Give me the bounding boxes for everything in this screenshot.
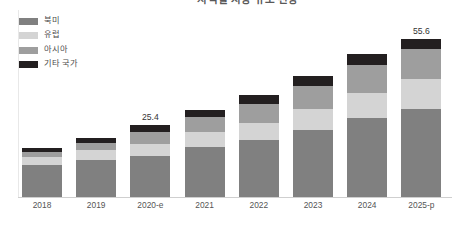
bar-segment[interactable] bbox=[293, 76, 333, 86]
bar-segment[interactable] bbox=[22, 165, 62, 197]
bar-stack bbox=[130, 125, 170, 197]
bar-group[interactable] bbox=[76, 138, 116, 197]
x-axis-tick-label: 2021 bbox=[185, 200, 225, 210]
bar-segment[interactable] bbox=[347, 93, 387, 119]
bar-segment[interactable] bbox=[347, 118, 387, 197]
x-axis-labels: 201820192020-e20212022202320242025-p bbox=[18, 200, 452, 216]
bar-segment[interactable] bbox=[22, 157, 62, 165]
x-axis-tick-label: 2024 bbox=[347, 200, 387, 210]
x-axis-tick-label: 2023 bbox=[293, 200, 333, 210]
bar-value-label: 25.4 bbox=[120, 112, 180, 122]
bar-segment[interactable] bbox=[239, 95, 279, 104]
bar-stack bbox=[239, 95, 279, 197]
bar-value-label: 55.6 bbox=[391, 26, 451, 36]
bar-segment[interactable] bbox=[76, 160, 116, 197]
bar-group[interactable]: 25.4 bbox=[130, 125, 170, 197]
x-axis-tick-label: 2025-p bbox=[401, 200, 441, 210]
bar-segment[interactable] bbox=[76, 143, 116, 150]
x-axis-line bbox=[18, 197, 452, 198]
x-axis-tick-label: 2019 bbox=[76, 200, 116, 210]
bar-segment[interactable] bbox=[293, 109, 333, 130]
bar-segment[interactable] bbox=[130, 125, 170, 132]
bar-segment[interactable] bbox=[239, 104, 279, 123]
bar-segment[interactable] bbox=[401, 39, 441, 49]
bar-group[interactable] bbox=[239, 95, 279, 197]
x-axis-tick-label: 2018 bbox=[22, 200, 62, 210]
bar-segment[interactable] bbox=[185, 147, 225, 197]
plot-area: 25.455.6 bbox=[18, 10, 452, 198]
y-axis-line bbox=[18, 10, 19, 198]
bar-segment[interactable] bbox=[130, 144, 170, 156]
bar-segment[interactable] bbox=[185, 117, 225, 132]
chart-title: 지역별 시장 규모 전망 bbox=[118, 0, 378, 5]
bar-segment[interactable] bbox=[401, 79, 441, 109]
bar-segment[interactable] bbox=[130, 156, 170, 197]
bar-stack bbox=[76, 138, 116, 197]
x-axis-tick-label: 2020-e bbox=[130, 200, 170, 210]
bar-segment[interactable] bbox=[130, 132, 170, 144]
bar-segment[interactable] bbox=[347, 65, 387, 93]
bar-segment[interactable] bbox=[293, 130, 333, 197]
bar-group[interactable] bbox=[293, 76, 333, 197]
stacked-bar-chart: 지역별 시장 규모 전망 북미유럽아시아기타 국가 25.455.6 20182… bbox=[0, 0, 456, 231]
bar-segment[interactable] bbox=[185, 132, 225, 147]
bar-group[interactable]: 55.6 bbox=[401, 39, 441, 197]
bar-segment[interactable] bbox=[185, 110, 225, 117]
bar-segment[interactable] bbox=[347, 54, 387, 65]
bar-segment[interactable] bbox=[239, 123, 279, 141]
bar-segment[interactable] bbox=[401, 49, 441, 79]
bar-group[interactable] bbox=[347, 54, 387, 197]
bar-group[interactable] bbox=[22, 148, 62, 197]
bar-stack bbox=[401, 39, 441, 197]
bar-segment[interactable] bbox=[76, 150, 116, 160]
bar-stack bbox=[347, 54, 387, 197]
bar-segment[interactable] bbox=[401, 109, 441, 197]
x-axis-tick-label: 2022 bbox=[239, 200, 279, 210]
bar-stack bbox=[22, 148, 62, 197]
bar-segment[interactable] bbox=[293, 86, 333, 109]
bar-stack bbox=[185, 110, 225, 197]
bar-stack bbox=[293, 76, 333, 197]
bar-group[interactable] bbox=[185, 110, 225, 197]
bar-segment[interactable] bbox=[239, 140, 279, 197]
